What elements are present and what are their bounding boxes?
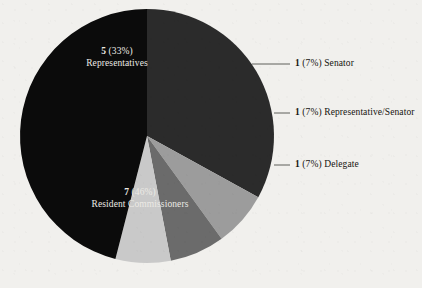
slice-percent-representatives: (33%) bbox=[109, 46, 133, 56]
slice-name-representatives: Representatives bbox=[57, 58, 177, 70]
slice-name-resident-commissioners: Resident Commissioners bbox=[55, 199, 225, 211]
slice-value-representatives: 5 bbox=[101, 46, 106, 56]
callout-percent-representative-senator: (7%) bbox=[302, 107, 321, 117]
callout-value-representative-senator: 1 bbox=[295, 107, 300, 117]
callout-name-senator: Senator bbox=[324, 58, 354, 68]
slice-label-resident-commissioners: 7 (46%) Resident Commissioners bbox=[55, 187, 225, 210]
callout-value-delegate: 1 bbox=[295, 159, 300, 169]
slice-percent-resident-commissioners: (46%) bbox=[132, 187, 156, 197]
callout-name-representative-senator: Representative/Senator bbox=[324, 107, 414, 117]
pie-chart-svg bbox=[0, 0, 422, 288]
callout-value-senator: 1 bbox=[295, 58, 300, 68]
slice-label-representatives: 5 (33%) Representatives bbox=[57, 46, 177, 69]
callout-percent-delegate: (7%) bbox=[302, 159, 321, 169]
pie-chart-figure: 5 (33%) Representatives 7 (46%) Resident… bbox=[0, 0, 422, 288]
callout-name-delegate: Delegate bbox=[324, 159, 359, 169]
slice-value-resident-commissioners: 7 bbox=[124, 187, 129, 197]
callout-label-senator: 1 (7%) Senator bbox=[295, 59, 354, 69]
callout-label-representative-senator: 1 (7%) Representative/Senator bbox=[295, 108, 415, 118]
callout-label-delegate: 1 (7%) Delegate bbox=[295, 160, 359, 170]
callout-percent-senator: (7%) bbox=[302, 58, 321, 68]
